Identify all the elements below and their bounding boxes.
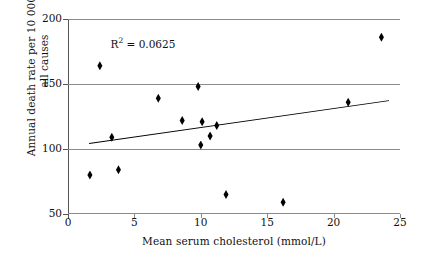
y-tick-mark-100	[63, 149, 68, 150]
data-point[interactable]	[196, 141, 205, 150]
diamond-marker-icon	[194, 82, 203, 91]
diamond-marker-icon	[206, 132, 215, 141]
data-point[interactable]	[95, 61, 104, 70]
x-axis-label: Mean serum cholesterol (mmol/L)	[68, 235, 400, 247]
diamond-marker-icon	[279, 198, 288, 207]
x-tick-label-text: 10	[194, 216, 207, 228]
gridline-y-150	[68, 84, 400, 85]
gridline-y-200	[68, 19, 400, 20]
data-point[interactable]	[178, 116, 187, 125]
data-point[interactable]	[212, 121, 221, 130]
x-tick-label-text: 0	[65, 216, 72, 228]
y-tick-label-text: 100	[42, 142, 62, 154]
scatter-chart-figure: Annual death rate per 10 000 men, all ca…	[0, 0, 422, 265]
y-tick-mark-150	[63, 84, 68, 85]
x-tick-label-text: 5	[131, 216, 138, 228]
diamond-marker-icon	[198, 117, 207, 126]
r-squared-annotation: R2 = 0.0625	[110, 36, 175, 50]
data-point[interactable]	[279, 198, 288, 207]
diamond-marker-icon	[344, 98, 353, 107]
data-point[interactable]	[198, 117, 207, 126]
y-axis-line	[68, 19, 69, 214]
diamond-marker-icon	[95, 61, 104, 70]
y-tick-mark-200	[63, 19, 68, 20]
data-point[interactable]	[107, 133, 116, 142]
data-point[interactable]	[344, 98, 353, 107]
data-point[interactable]	[222, 190, 231, 199]
y-tick-label-text: 200	[42, 12, 62, 24]
data-point[interactable]	[154, 94, 163, 103]
diamond-marker-icon	[222, 190, 231, 199]
data-point[interactable]	[114, 165, 123, 174]
data-point[interactable]	[206, 132, 215, 141]
x-tick-label-text: 20	[327, 216, 340, 228]
diamond-marker-icon	[212, 121, 221, 130]
gridline-y-100	[68, 149, 400, 150]
diamond-marker-icon	[154, 94, 163, 103]
x-tick-label-text: 25	[393, 216, 406, 228]
diamond-marker-icon	[196, 141, 205, 150]
x-axis-line	[68, 213, 400, 214]
x-tick-label-text: 15	[261, 216, 274, 228]
diamond-marker-icon	[178, 116, 187, 125]
data-point[interactable]	[85, 171, 94, 180]
data-point[interactable]	[194, 82, 203, 91]
diamond-marker-icon	[114, 165, 123, 174]
diamond-marker-icon	[85, 171, 94, 180]
y-tick-label-text: 150	[42, 77, 62, 89]
y-tick-label-text: 50	[49, 207, 62, 219]
r-squared-value: = 0.0625	[123, 37, 175, 49]
data-point[interactable]	[377, 33, 386, 42]
diamond-marker-icon	[377, 33, 386, 42]
diamond-marker-icon	[107, 133, 116, 142]
